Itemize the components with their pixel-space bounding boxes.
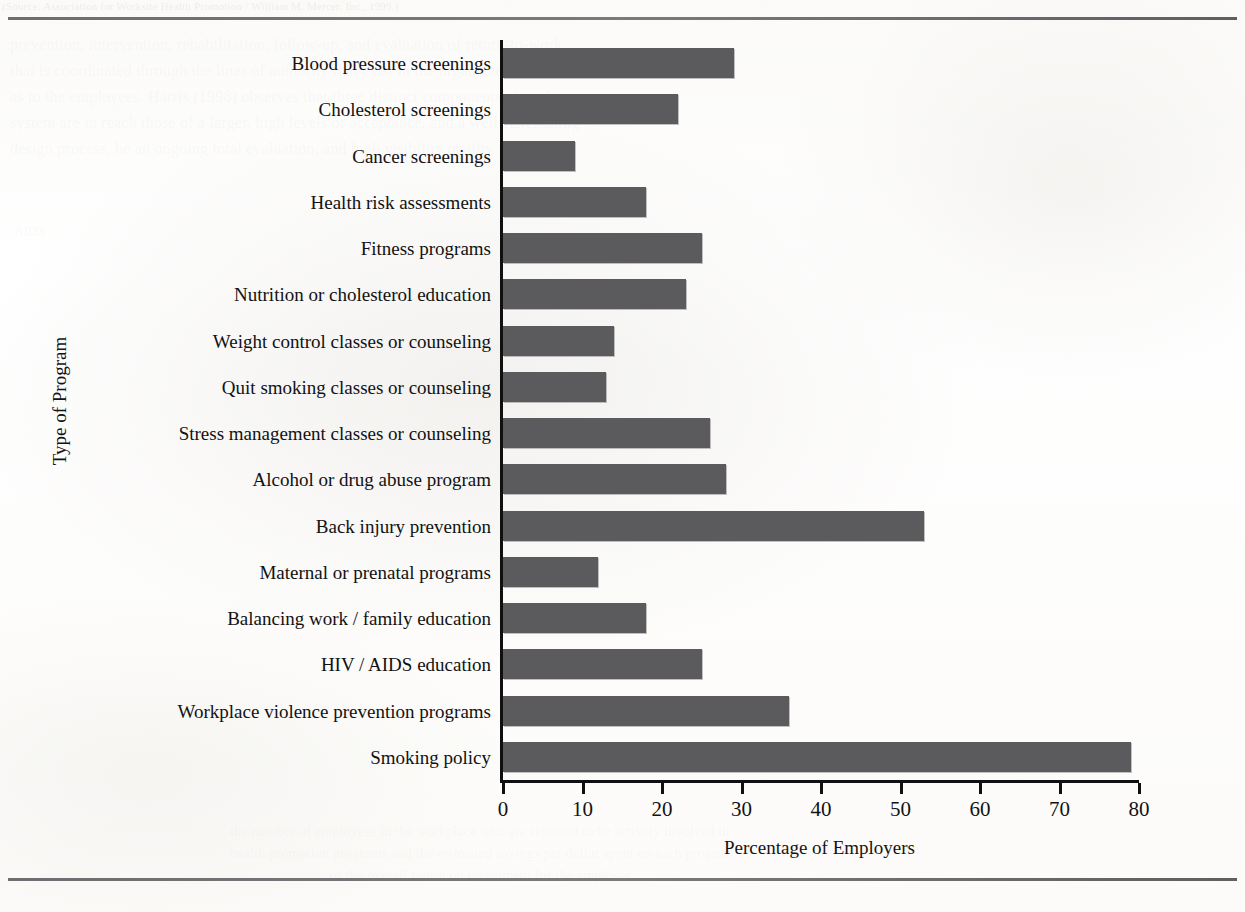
category-label: HIV / AIDS education — [0, 655, 491, 674]
category-label: Fitness programs — [0, 239, 491, 258]
category-label: Balancing work / family education — [0, 609, 491, 628]
bar-series — [503, 40, 1139, 780]
bar-row — [503, 187, 1139, 217]
category-label: Alcohol or drug abuse program — [0, 470, 491, 489]
x-tick-label: 30 — [712, 797, 772, 822]
bar — [503, 557, 598, 587]
bar-row — [503, 279, 1139, 309]
bar — [503, 326, 614, 356]
bar-row — [503, 742, 1139, 772]
bar-row — [503, 141, 1139, 171]
bar — [503, 233, 702, 263]
x-tick-label: 70 — [1030, 797, 1090, 822]
x-tick — [1138, 783, 1141, 794]
category-label: Stress management classes or counseling — [0, 424, 491, 443]
bar-row — [503, 326, 1139, 356]
bar-row — [503, 372, 1139, 402]
bar-row — [503, 557, 1139, 587]
bar — [503, 279, 686, 309]
bar-row — [503, 94, 1139, 124]
bar-row — [503, 418, 1139, 448]
bar — [503, 464, 726, 494]
category-label: Weight control classes or counseling — [0, 332, 491, 351]
x-tick-label: 10 — [553, 797, 613, 822]
x-tick — [661, 783, 664, 794]
chart-page: (Source: Association for Worksite Health… — [0, 0, 1245, 912]
bar-chart: Type of Program 01020304050607080 Blood … — [0, 0, 1245, 912]
bar — [503, 649, 702, 679]
category-label: Workplace violence prevention programs — [0, 702, 491, 721]
x-tick-label: 60 — [950, 797, 1010, 822]
bar-row — [503, 464, 1139, 494]
category-label: Cancer screenings — [0, 147, 491, 166]
bar — [503, 511, 924, 541]
x-tick — [820, 783, 823, 794]
bar-row — [503, 233, 1139, 263]
x-tick — [900, 783, 903, 794]
category-label: Back injury prevention — [0, 517, 491, 536]
bar — [503, 603, 646, 633]
bar — [503, 418, 710, 448]
bar — [503, 742, 1131, 772]
category-label: Maternal or prenatal programs — [0, 563, 491, 582]
bar-row — [503, 696, 1139, 726]
bar — [503, 141, 575, 171]
bar — [503, 696, 789, 726]
x-tick — [502, 783, 505, 794]
bar-row — [503, 649, 1139, 679]
x-axis-title: Percentage of Employers — [502, 837, 1137, 859]
bar — [503, 372, 606, 402]
x-tick-label: 80 — [1109, 797, 1169, 822]
category-label: Smoking policy — [0, 748, 491, 767]
bar-row — [503, 511, 1139, 541]
bar-row — [503, 48, 1139, 78]
bar-row — [503, 603, 1139, 633]
x-tick — [1059, 783, 1062, 794]
x-tick-label: 20 — [632, 797, 692, 822]
x-tick — [979, 783, 982, 794]
category-label: Quit smoking classes or counseling — [0, 378, 491, 397]
category-label: Health risk assessments — [0, 193, 491, 212]
x-tick-label: 50 — [871, 797, 931, 822]
bar — [503, 48, 734, 78]
x-tick-label: 40 — [791, 797, 851, 822]
x-tick — [741, 783, 744, 794]
category-label: Blood pressure screenings — [0, 54, 491, 73]
bar — [503, 94, 678, 124]
bar — [503, 187, 646, 217]
x-tick — [582, 783, 585, 794]
x-tick-label: 0 — [473, 797, 533, 822]
category-label: Nutrition or cholesterol education — [0, 285, 491, 304]
category-label: Cholesterol screenings — [0, 100, 491, 119]
